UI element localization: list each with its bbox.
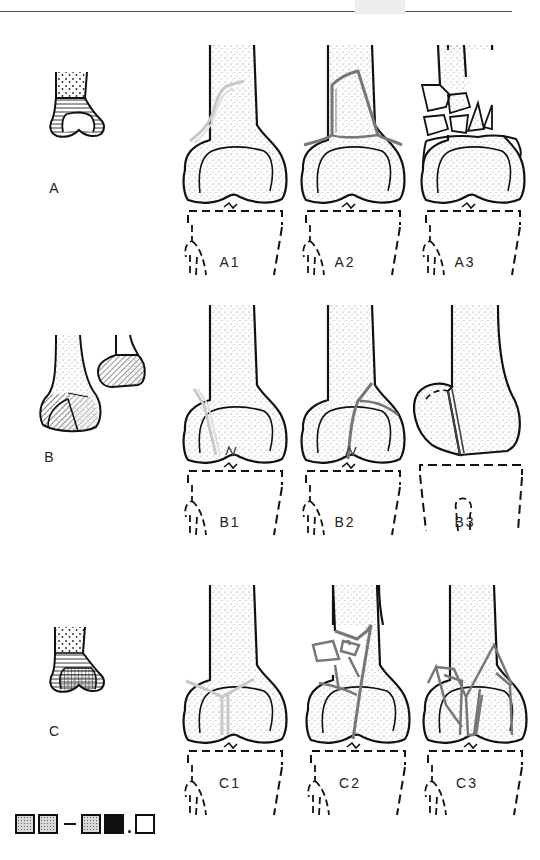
figure-b3-label: B3: [435, 514, 495, 530]
page-smudge: [355, 0, 405, 14]
legend-period: [128, 830, 131, 833]
figure-b1-label: B1: [200, 514, 260, 530]
figure-a3: [420, 45, 530, 280]
figure-a3-label: A3: [435, 254, 495, 270]
schematic-a-label: A: [35, 180, 75, 196]
figure-b3: [412, 305, 532, 540]
figure-c3-label: C3: [437, 775, 497, 791]
figure-b2: [300, 305, 410, 540]
header-rule: [0, 11, 512, 12]
legend-dotted-square-1: [15, 814, 35, 834]
figure-a1-label: A1: [200, 254, 260, 270]
figure-c1-label: C1: [200, 775, 260, 791]
legend-black-square: [104, 814, 124, 834]
figure-a1: [182, 45, 292, 280]
legend-white-square: [135, 814, 155, 834]
schematic-c-label: C: [35, 723, 75, 739]
figure-a2: [300, 45, 410, 280]
figure-a2-label: A2: [315, 254, 375, 270]
schematic-b: [38, 335, 148, 435]
figure-b1: [182, 305, 292, 540]
legend-dash: [64, 823, 76, 825]
legend-dotted-square-2: [38, 814, 58, 834]
schematic-b-label: B: [30, 449, 70, 465]
schematic-a: [43, 70, 113, 140]
legend-dotted-square-3: [81, 814, 101, 834]
figure-c2-label: C2: [320, 775, 380, 791]
figure-b2-label: B2: [315, 514, 375, 530]
severity-legend: [15, 814, 158, 834]
schematic-c: [43, 625, 113, 695]
